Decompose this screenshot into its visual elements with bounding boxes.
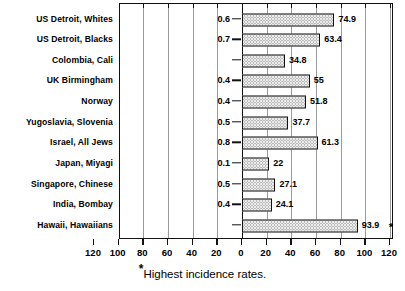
category-label: US Detroit, Whites <box>36 14 113 24</box>
x-axis-tick-label: 20 <box>211 247 222 258</box>
bar <box>242 137 318 150</box>
left-value-label: 0.6 <box>198 14 230 24</box>
category-label: Hawaii, Hawaiians <box>37 220 113 230</box>
category-label: Yugoslavia, Slovenia <box>26 117 113 127</box>
bar-value-label: 27.1 <box>279 179 297 189</box>
x-axis-tick <box>142 239 143 245</box>
bar <box>242 13 334 26</box>
top-tick <box>316 4 317 8</box>
bar-value-label: 55 <box>314 75 324 85</box>
bar <box>242 178 275 191</box>
x-axis-tick-label: 20 <box>260 247 271 258</box>
left-value-tick <box>232 38 241 39</box>
top-tick <box>193 4 194 8</box>
category-label: Japan, Miyagi <box>55 158 113 168</box>
x-axis-tick-label: 0 <box>238 247 243 258</box>
gridline <box>193 4 194 238</box>
left-value-label: 0.5 <box>198 179 230 189</box>
x-axis-tick-label: 80 <box>137 247 148 258</box>
left-value-tick <box>232 80 241 81</box>
top-tick <box>267 4 268 8</box>
bar <box>242 34 320 47</box>
x-axis-tick-label: 40 <box>186 247 197 258</box>
top-tick <box>291 4 292 8</box>
bar-value-label: 24.1 <box>276 199 294 209</box>
left-value-tick <box>232 224 241 225</box>
left-value-label: 0.4 <box>198 199 230 209</box>
bar-value-label: 63.4 <box>324 34 342 44</box>
plot-area <box>119 3 393 239</box>
top-tick <box>143 4 144 8</box>
top-tick <box>341 4 342 8</box>
bar-value-label: 51.8 <box>310 96 328 106</box>
left-value-label: 0.4 <box>198 96 230 106</box>
bar <box>242 220 358 233</box>
left-value-tick <box>232 59 241 60</box>
top-tick <box>168 4 169 8</box>
x-axis-tick-label: 100 <box>356 247 372 258</box>
bar-value-label: 74.9 <box>338 14 356 24</box>
top-tick <box>390 4 391 8</box>
bar-value-label: 22 <box>273 158 283 168</box>
x-axis-tick <box>192 239 193 245</box>
x-axis-tick <box>364 239 365 245</box>
left-value-label: 0.7 <box>198 34 230 44</box>
x-axis-tick-label: 120 <box>85 247 101 258</box>
x-axis-tick-label: 60 <box>310 247 321 258</box>
x-axis-tick <box>315 239 316 245</box>
x-axis-tick <box>167 239 168 245</box>
left-value-tick <box>232 183 241 184</box>
left-value-label: 0.4 <box>198 75 230 85</box>
left-value-tick <box>232 121 241 122</box>
bar <box>242 75 310 88</box>
footnote-text: Highest incidence rates. <box>143 268 266 280</box>
left-value-tick <box>232 100 241 101</box>
x-axis-tick <box>340 239 341 245</box>
left-value-label: 0.1 <box>198 158 230 168</box>
bar <box>242 96 306 109</box>
category-label: Norway <box>81 96 113 106</box>
bar-value-label: 37.7 <box>292 117 310 127</box>
category-label: Singapore, Chinese <box>31 179 113 189</box>
gridline <box>168 4 169 238</box>
gridline <box>143 4 144 238</box>
top-tick <box>242 4 243 8</box>
left-value-tick <box>232 204 241 205</box>
gridline <box>365 4 366 238</box>
bar-value-label: 61.3 <box>322 137 340 147</box>
x-axis-tick <box>290 239 291 245</box>
x-axis-tick-label: 60 <box>162 247 173 258</box>
category-label: Colombia, Cali <box>52 55 113 65</box>
x-axis-tick-label: 80 <box>334 247 345 258</box>
bar <box>242 199 272 212</box>
x-axis-tick <box>266 239 267 245</box>
highest-incidence-star-icon: * <box>389 222 393 233</box>
x-axis-tick <box>118 239 119 245</box>
x-axis-tick-label: 100 <box>110 247 126 258</box>
top-tick <box>365 4 366 8</box>
left-value-tick <box>232 142 241 143</box>
bar <box>242 54 285 67</box>
bar-value-label: 93.9 <box>362 220 380 230</box>
bar <box>242 116 288 129</box>
bar <box>242 158 269 171</box>
left-value-tick <box>232 162 241 163</box>
x-axis-tick-label: 40 <box>285 247 296 258</box>
left-value-tick <box>232 18 241 19</box>
left-value-label: 0.5 <box>198 117 230 127</box>
top-tick <box>217 4 218 8</box>
left-value-label: 0.8 <box>198 137 230 147</box>
category-label: US Detroit, Blacks <box>37 34 113 44</box>
gridline <box>390 4 391 238</box>
x-axis-tick <box>241 239 242 245</box>
category-label: UK Birmingham <box>47 75 113 85</box>
category-label: Israel, All Jews <box>50 137 113 147</box>
footnote: *Highest incidence rates. <box>0 268 405 280</box>
x-axis-tick <box>389 239 390 245</box>
bar-value-label: 34.8 <box>289 55 307 65</box>
x-axis-tick <box>216 239 217 245</box>
x-axis-tick-label: 120 <box>381 247 397 258</box>
category-label: India, Bombay <box>53 199 113 209</box>
chart-canvas: US Detroit, WhitesUS Detroit, BlacksColo… <box>0 0 405 291</box>
x-axis-tick <box>93 239 94 245</box>
